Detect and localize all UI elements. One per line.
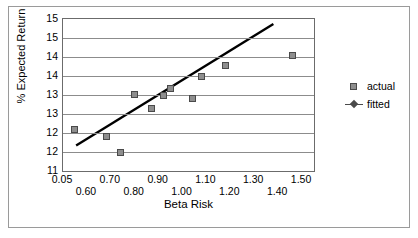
- gridline: [63, 76, 314, 77]
- legend-label-actual: actual: [367, 80, 395, 92]
- x-axis-tick-label: 0.80: [123, 186, 143, 197]
- y-axis-tick-label: 13: [46, 108, 58, 119]
- y-axis-tick-label: 15: [46, 13, 58, 24]
- gridline: [63, 133, 314, 134]
- line-diamond-marker-icon: [345, 98, 363, 110]
- chart-figure: % Expected Return 151514141313121211 0.0…: [0, 0, 418, 238]
- x-axis-title: Beta Risk: [62, 198, 315, 210]
- x-axis-tick-label: 0.70: [100, 174, 120, 185]
- y-axis-tick-label: 13: [46, 89, 58, 100]
- gridline: [63, 152, 314, 153]
- square-marker-icon: [345, 80, 363, 92]
- y-axis-tick-labels: 151514141313121211: [30, 18, 58, 172]
- x-axis-tick-label: 1.30: [243, 174, 263, 185]
- x-axis-tick-labels: 0.050.600.700.800.901.001.101.201.301.40…: [62, 172, 315, 200]
- data-point-marker: [117, 149, 124, 156]
- legend-label-fitted: fitted: [367, 98, 390, 110]
- gridline: [63, 57, 314, 58]
- data-point-marker: [103, 133, 110, 140]
- data-point-marker: [189, 95, 196, 102]
- y-axis-tick-label: 12: [46, 127, 58, 138]
- y-axis-title: % Expected Return: [15, 0, 27, 121]
- x-axis-tick-label: 1.40: [267, 186, 287, 197]
- data-point-marker: [167, 85, 174, 92]
- plot-area: [62, 18, 315, 172]
- gridline: [63, 114, 314, 115]
- x-axis-tick-label: 1.20: [219, 186, 239, 197]
- legend-item-fitted[interactable]: fitted: [345, 96, 405, 112]
- data-point-marker: [160, 92, 167, 99]
- x-axis-tick-label: 0.90: [147, 174, 167, 185]
- data-point-marker: [198, 73, 205, 80]
- y-axis-tick-label: 14: [46, 51, 58, 62]
- y-axis-tick-label: 12: [46, 146, 58, 157]
- y-axis-tick-label: 15: [46, 32, 58, 43]
- x-axis-tick-label: 0.60: [76, 186, 96, 197]
- x-axis-tick-label: 1.10: [195, 174, 215, 185]
- y-axis-tick-label: 14: [46, 70, 58, 81]
- data-point-marker: [131, 91, 138, 98]
- chart-legend: actual fitted: [345, 78, 405, 114]
- data-point-marker: [71, 126, 78, 133]
- gridline: [63, 38, 314, 39]
- x-axis-tick-label: 1.50: [291, 174, 311, 185]
- x-axis-tick-label: 0.05: [52, 174, 72, 185]
- data-point-marker: [148, 105, 155, 112]
- data-point-marker: [289, 52, 296, 59]
- legend-item-actual[interactable]: actual: [345, 78, 405, 94]
- data-point-marker: [222, 62, 229, 69]
- x-axis-tick-label: 1.00: [171, 186, 191, 197]
